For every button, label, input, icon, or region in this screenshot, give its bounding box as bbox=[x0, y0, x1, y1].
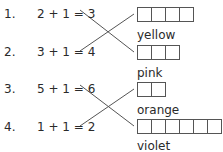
letter-box[interactable] bbox=[151, 45, 166, 60]
equation-text: 1 + 1 = 2 bbox=[37, 120, 95, 134]
letter-box[interactable] bbox=[193, 119, 208, 134]
letter-box[interactable] bbox=[179, 7, 194, 22]
letter-box[interactable] bbox=[151, 119, 166, 134]
answer-boxes-pink[interactable] bbox=[137, 45, 179, 59]
letter-box[interactable] bbox=[137, 7, 152, 22]
equation-text: 3 + 1 = 4 bbox=[37, 45, 95, 59]
item-number: 1. bbox=[4, 7, 15, 21]
equation-text: 5 + 1 = 6 bbox=[37, 82, 95, 96]
answer-word: orange bbox=[137, 103, 179, 117]
answer-boxes-orange[interactable] bbox=[137, 82, 165, 96]
letter-box[interactable] bbox=[207, 119, 222, 134]
letter-box[interactable] bbox=[165, 7, 180, 22]
item-number: 4. bbox=[4, 120, 15, 134]
letter-box[interactable] bbox=[165, 119, 180, 134]
letter-box[interactable] bbox=[137, 119, 152, 134]
answer-word: violet bbox=[137, 139, 170, 152]
item-number: 2. bbox=[4, 45, 15, 59]
letter-box[interactable] bbox=[165, 45, 180, 60]
item-number: 3. bbox=[4, 82, 15, 96]
answer-word: pink bbox=[137, 66, 163, 80]
letter-box[interactable] bbox=[137, 82, 152, 97]
letter-box[interactable] bbox=[151, 7, 166, 22]
equation-text: 2 + 1 = 3 bbox=[37, 7, 95, 21]
answer-boxes-yellow[interactable] bbox=[137, 7, 193, 21]
letter-box[interactable] bbox=[151, 82, 166, 97]
answer-word: yellow bbox=[137, 28, 175, 42]
letter-box[interactable] bbox=[179, 119, 194, 134]
answer-boxes-violet[interactable] bbox=[137, 119, 221, 133]
letter-box[interactable] bbox=[137, 45, 152, 60]
